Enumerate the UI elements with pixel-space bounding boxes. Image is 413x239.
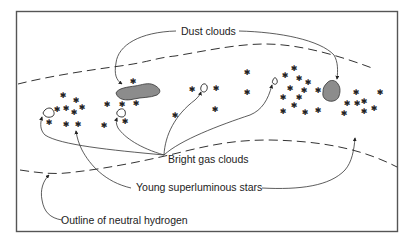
star-icon: ✱ [63,104,70,113]
star-icon: ✱ [344,99,351,108]
star-icon: ✱ [101,121,108,130]
gas-arrow-3 [164,92,201,155]
star-icon: ✱ [54,105,61,114]
label-young-superluminous-stars: Young superluminous stars [136,181,262,193]
stars-arrow-2 [262,138,355,188]
star-icon: ✱ [377,88,384,97]
star-icon: ✱ [315,106,322,115]
star-icon: ✱ [79,103,86,112]
star-icon: ✱ [172,111,179,120]
star-icon: ✱ [63,120,70,129]
star-icon: ✱ [212,105,219,114]
diagram-frame [17,12,398,232]
gas-cloud-4 [272,78,277,85]
label-bright-gas-clouds: Bright gas clouds [168,153,249,165]
star-icon: ✱ [71,108,78,117]
star-icon: ✱ [189,85,196,94]
star-icon: ✱ [46,118,53,127]
star-icon: ✱ [353,88,360,97]
star-icon: ✱ [341,109,348,118]
dust-cloud-elongated [116,84,160,100]
star-icon: ✱ [280,107,287,116]
star-icon: ✱ [122,117,129,126]
galaxy-structure-diagram: ✱ ✱ ✱ ✱ ✱ ✱ ✱ ✱ ✱ ✱ ✱ ✱ ✱ ✱ ✱ ✱ ✱ ✱ ✱ ✱ … [0,0,413,239]
star-icon: ✱ [282,71,289,80]
star-icon: ✱ [213,84,220,93]
star-icon: ✱ [119,100,126,109]
star-icon: ✱ [287,84,294,93]
star-icon: ✱ [361,107,368,116]
star-icon: ✱ [354,99,361,108]
label-neutral-hydrogen: Outline of neutral hydrogen [61,214,188,226]
star-icon: ✱ [296,74,303,83]
label-dust-clouds: Dust clouds [181,25,236,37]
dust-arrow-1 [115,31,176,84]
gas-cloud-1 [43,108,54,117]
star-icon: ✱ [361,97,368,106]
star-icon: ✱ [302,108,309,117]
star-icon: ✱ [291,64,298,73]
star-icon: ✱ [291,101,298,110]
dust-cloud-round [323,80,340,101]
star-icon: ✱ [371,104,378,113]
star-icon: ✱ [130,77,137,86]
hydrogen-arrow [41,175,62,220]
star-icon: ✱ [280,93,287,102]
gas-cloud-3 [201,84,208,92]
star-icon: ✱ [315,86,322,95]
star-icon: ✱ [60,91,67,100]
stars-arrow-1 [76,131,131,188]
star-icon: ✱ [104,100,111,109]
star-icon: ✱ [75,120,82,129]
hydrogen-outline-upper [18,44,372,84]
star-icon: ✱ [244,68,251,77]
star-icon: ✱ [133,99,140,108]
star-icon: ✱ [244,88,251,97]
